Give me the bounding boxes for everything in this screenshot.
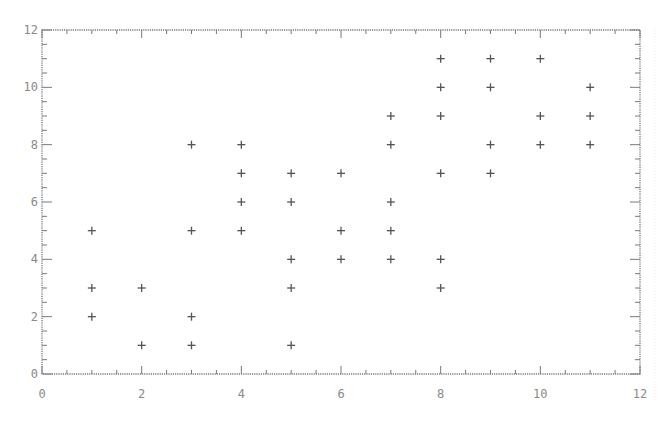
y-tick-label: 8 bbox=[31, 138, 38, 152]
plus-marker-icon bbox=[188, 227, 196, 235]
plus-marker-icon bbox=[487, 141, 495, 149]
plus-marker-icon bbox=[536, 141, 544, 149]
x-tick-label: 12 bbox=[633, 387, 647, 401]
plus-marker-icon bbox=[487, 83, 495, 91]
plus-marker-icon bbox=[437, 255, 445, 263]
x-tick-label: 0 bbox=[38, 387, 45, 401]
y-tick-label: 0 bbox=[31, 367, 38, 381]
plus-marker-icon bbox=[188, 141, 196, 149]
y-tick-label: 10 bbox=[24, 80, 38, 94]
plus-marker-icon bbox=[487, 169, 495, 177]
plus-marker-icon bbox=[437, 55, 445, 63]
plus-marker-icon bbox=[437, 284, 445, 292]
x-tick-label: 10 bbox=[533, 387, 547, 401]
plus-marker-icon bbox=[337, 169, 345, 177]
data-points bbox=[88, 55, 594, 350]
plus-marker-icon bbox=[287, 198, 295, 206]
plot-frame bbox=[42, 30, 640, 374]
plus-marker-icon bbox=[387, 227, 395, 235]
plus-marker-icon bbox=[188, 313, 196, 321]
plus-marker-icon bbox=[586, 83, 594, 91]
plus-marker-icon bbox=[237, 227, 245, 235]
plus-marker-icon bbox=[586, 112, 594, 120]
plus-marker-icon bbox=[337, 255, 345, 263]
plus-marker-icon bbox=[237, 198, 245, 206]
plus-marker-icon bbox=[536, 112, 544, 120]
plus-marker-icon bbox=[387, 198, 395, 206]
plus-marker-icon bbox=[437, 169, 445, 177]
plus-marker-icon bbox=[188, 341, 196, 349]
plus-marker-icon bbox=[536, 55, 544, 63]
plus-marker-icon bbox=[88, 227, 96, 235]
y-tick-label: 6 bbox=[31, 195, 38, 209]
plus-marker-icon bbox=[88, 313, 96, 321]
plus-marker-icon bbox=[437, 112, 445, 120]
plus-marker-icon bbox=[287, 284, 295, 292]
plus-marker-icon bbox=[88, 284, 96, 292]
plus-marker-icon bbox=[287, 255, 295, 263]
y-tick-label: 2 bbox=[31, 310, 38, 324]
plus-marker-icon bbox=[287, 169, 295, 177]
x-tick-label: 8 bbox=[437, 387, 444, 401]
plus-marker-icon bbox=[387, 141, 395, 149]
plus-marker-icon bbox=[287, 341, 295, 349]
y-tick-label: 12 bbox=[24, 23, 38, 37]
scatter-plot: 024681012 024681012 bbox=[0, 0, 671, 423]
x-tick-label: 6 bbox=[337, 387, 344, 401]
axis-ticks bbox=[42, 30, 640, 374]
plus-marker-icon bbox=[387, 255, 395, 263]
plus-marker-icon bbox=[487, 55, 495, 63]
plus-marker-icon bbox=[138, 284, 146, 292]
x-tick-label: 2 bbox=[138, 387, 145, 401]
y-tick-label: 4 bbox=[31, 252, 38, 266]
plus-marker-icon bbox=[387, 112, 395, 120]
x-tick-label: 4 bbox=[238, 387, 245, 401]
plus-marker-icon bbox=[237, 141, 245, 149]
plus-marker-icon bbox=[586, 141, 594, 149]
plus-marker-icon bbox=[237, 169, 245, 177]
x-axis-tick-labels: 024681012 bbox=[38, 387, 647, 401]
plus-marker-icon bbox=[337, 227, 345, 235]
plus-marker-icon bbox=[437, 83, 445, 91]
y-axis-tick-labels: 024681012 bbox=[24, 23, 38, 381]
plus-marker-icon bbox=[138, 341, 146, 349]
